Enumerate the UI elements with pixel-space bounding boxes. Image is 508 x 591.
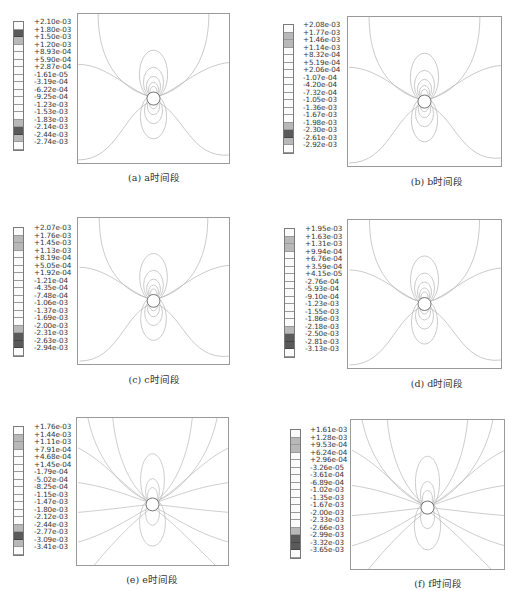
legend-colorbar <box>13 426 24 556</box>
legend-labels: +1.95e-03 +1.63e-03 +1.31e-03 +9.94e-04 … <box>305 225 342 353</box>
caption-e: (e) e时间段 <box>126 572 178 586</box>
contour-plot-c <box>77 217 230 365</box>
contour-plot-a <box>77 13 230 164</box>
legend-labels: +2.07e-03 +1.76e-03 +1.45e-03 +1.13e-03 … <box>34 224 71 352</box>
legend-colorbar <box>284 228 295 358</box>
legend-colorbar <box>290 429 301 559</box>
legend-labels: +2.10e-03 +1.80e-03 +1.50e-03 +1.20e-03 … <box>34 18 71 146</box>
legend-colorbar <box>283 24 294 154</box>
legend-labels: +1.76e-03 +1.44e-03 +1.11e-03 +7.91e-04 … <box>34 423 71 551</box>
caption-a: (a) a时间段 <box>128 170 180 184</box>
contour-plot-d <box>347 219 502 369</box>
legend-colorbar <box>13 21 24 151</box>
legend-labels: +1.61e-03 +1.28e-03 +9.53e-04 +6.24e-04 … <box>310 426 347 554</box>
caption-f: (f) f时间段 <box>414 576 461 590</box>
caption-d: (d) d时间段 <box>411 376 464 390</box>
caption-b: (b) b时间段 <box>411 174 464 188</box>
contour-plot-f <box>350 419 505 570</box>
legend-labels: +2.08e-03 +1.77e-03 +1.46e-03 +1.14e-03 … <box>303 21 340 149</box>
legend-colorbar <box>13 227 24 357</box>
contour-plot-e <box>76 417 229 566</box>
contour-plot-b <box>347 16 502 167</box>
caption-c: (c) c时间段 <box>128 372 179 386</box>
